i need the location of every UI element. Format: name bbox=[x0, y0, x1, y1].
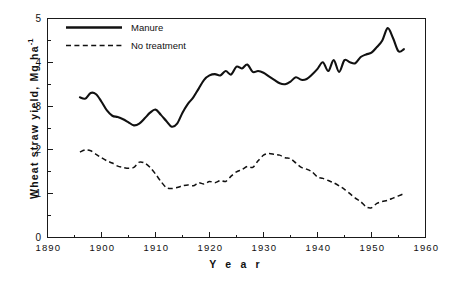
x-tick-label: 1950 bbox=[360, 242, 386, 253]
x-tick-label: 1890 bbox=[36, 242, 62, 253]
x-tick-label: 1960 bbox=[414, 242, 440, 253]
chart-plot-area bbox=[0, 0, 452, 281]
y-tick-label: 1 bbox=[36, 188, 42, 199]
y-tick-label: 4 bbox=[36, 57, 42, 68]
data-series-manure bbox=[80, 28, 404, 127]
y-axis-label-exponent: -1 bbox=[26, 39, 35, 46]
y-tick-label: 2 bbox=[36, 144, 42, 155]
data-series-no-treatment bbox=[80, 150, 404, 208]
x-tick-label: 1940 bbox=[306, 242, 332, 253]
x-tick-label: 1910 bbox=[144, 242, 170, 253]
legend-label-no-treatment: No treatment bbox=[131, 40, 186, 51]
x-tick-label: 1900 bbox=[90, 242, 116, 253]
y-tick-label: 3 bbox=[36, 101, 42, 112]
x-tick-label: 1930 bbox=[252, 242, 278, 253]
chart-figure: Wheat straw yield, Mg ha-1 Y e a r 18901… bbox=[0, 0, 452, 281]
legend-sample-lines bbox=[66, 28, 122, 46]
x-axis-label: Y e a r bbox=[47, 258, 425, 270]
legend-label-manure: Manure bbox=[131, 22, 163, 33]
y-axis-ticks bbox=[48, 19, 54, 238]
x-axis-ticks bbox=[48, 232, 426, 238]
y-tick-label: 0 bbox=[36, 232, 42, 243]
y-axis-label-text: Wheat straw yield, Mg ha bbox=[28, 45, 40, 199]
x-tick-label: 1920 bbox=[198, 242, 224, 253]
plot-frame bbox=[48, 19, 426, 238]
axis-frame-path bbox=[48, 19, 426, 238]
data-series-group bbox=[80, 28, 404, 208]
y-tick-label: 5 bbox=[36, 13, 42, 24]
